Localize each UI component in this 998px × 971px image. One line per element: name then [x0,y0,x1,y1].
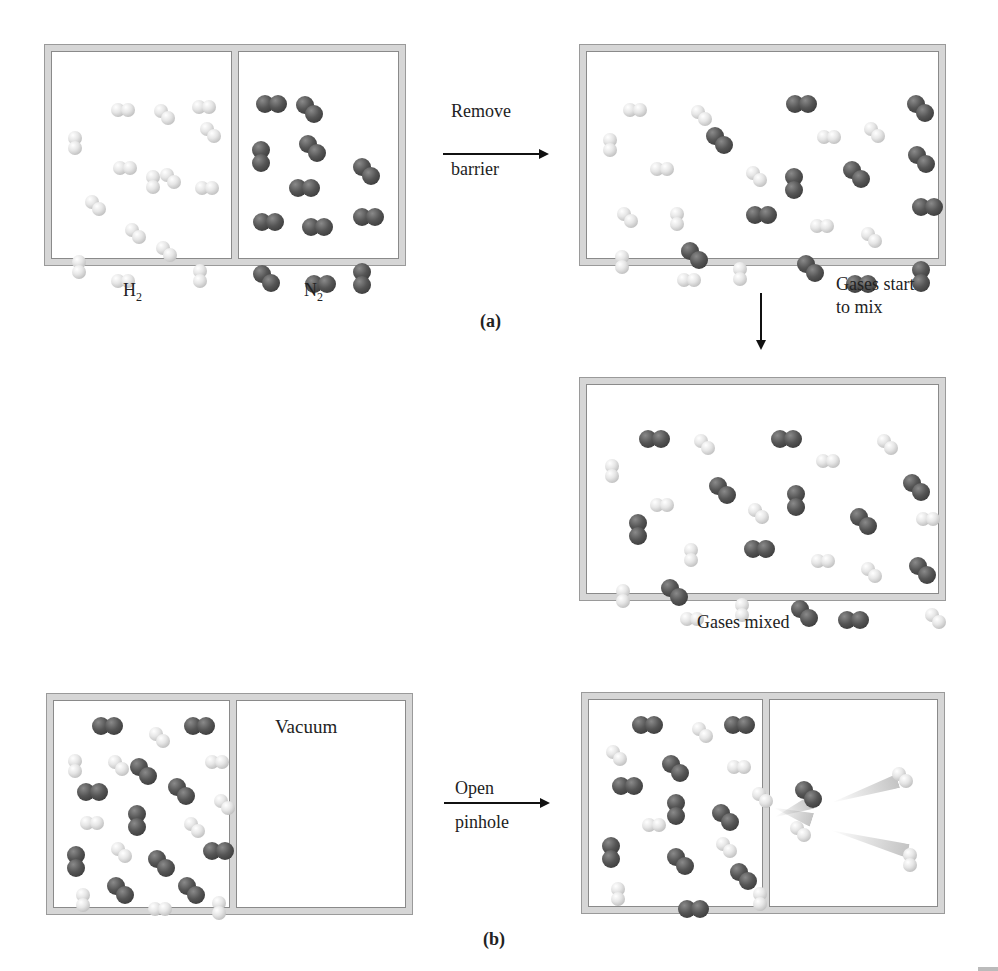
nitrogen-molecule [353,263,379,279]
hydrogen-molecule [72,255,98,271]
hydrogen-molecule [113,161,139,177]
atom [737,716,755,734]
hydrogen-molecule [816,454,842,470]
hydrogen-molecule [650,162,676,178]
atom [157,859,175,877]
atom [68,764,82,778]
hydrogen-molecule [864,122,890,138]
nitrogen-molecule [662,755,688,771]
atom [132,230,146,244]
atom [691,900,709,918]
atom [859,517,877,535]
hydrogen-molecule [85,195,111,211]
nitrogen-molecule [681,242,707,258]
atom [753,897,767,911]
atom [615,260,629,274]
atom [797,828,811,842]
atom [269,95,287,113]
atom [759,794,773,808]
atom [918,566,936,584]
atom [737,760,751,774]
atom [757,540,775,558]
atom [667,807,685,825]
atom [871,129,885,143]
atom [205,181,219,195]
atom [785,181,803,199]
atom [68,141,82,155]
down-arrow-icon [760,293,762,348]
hydrogen-molecule [670,207,696,223]
atom [645,716,663,734]
page-corner-mark [978,967,998,971]
atom [611,892,625,906]
nitrogen-molecule [667,848,693,864]
atom [759,206,777,224]
hydrogen-molecule [611,882,637,898]
atom [884,441,898,455]
hydrogen-molecule [623,103,649,119]
hydrogen-molecule [790,821,816,837]
hydrogen-molecule [214,794,240,810]
atom [315,218,333,236]
atom [868,569,882,583]
nitrogen-molecule [795,781,821,797]
nitrogen-molecule [661,579,687,595]
atom [105,717,123,735]
hydrogen-molecule [642,818,668,834]
nitrogen-molecule [92,717,118,733]
atom [715,136,733,154]
nitrogen-molecule [632,716,658,732]
hydrogen-molecule [694,434,720,450]
atom [826,454,840,468]
hydrogen-molecule [205,755,231,771]
atom [139,767,157,785]
atom [676,857,694,875]
atom [221,801,235,815]
nitrogen-molecule [709,477,735,493]
atom [852,170,870,188]
nitrogen-molecule [907,95,933,111]
atom [912,274,930,292]
gases-start-to-mix-label-2: to mix [836,297,883,317]
atom [302,179,320,197]
nitrogen-molecule [785,168,811,184]
hydrogen-molecule [916,512,942,528]
hydrogen-molecule [650,498,676,514]
hydrogen-molecule [193,264,219,280]
atom [191,824,205,838]
atom [362,167,380,185]
hydrogen-molecule [616,584,642,600]
open-pinhole-label-bottom: pinhole [455,812,509,832]
container-sealed: Vacuum [47,694,412,914]
hydrogen-molecule [903,848,929,864]
hydrogen-molecule [80,816,106,832]
nitrogen-molecule [299,135,325,151]
atom [827,130,841,144]
atom [820,219,834,233]
hydrogen-molecule [111,103,137,119]
atom [90,816,104,830]
atom [156,734,170,748]
atom [308,144,326,162]
hydrogen-molecule [184,817,210,833]
hydrogen-molecule [733,262,759,278]
hydrogen-molecule [617,207,643,223]
atom [670,588,688,606]
nitrogen-molecule [744,540,770,556]
nitrogen-molecule [353,158,379,174]
container-effusing [582,693,944,913]
nitrogen-molecule [903,474,929,490]
atom [76,898,90,912]
atom [353,276,371,294]
right-arrow-icon [444,802,548,804]
remove-barrier-label-top: Remove [451,101,511,121]
hydrogen-molecule [200,122,226,138]
nitrogen-molecule [786,95,812,111]
atom [755,510,769,524]
atom [146,180,160,194]
h2-label: H2 [123,280,142,307]
atom [92,202,106,216]
hydrogen-molecule [692,722,718,738]
nitrogen-molecule [256,95,282,111]
molecules-effusing [588,699,938,907]
